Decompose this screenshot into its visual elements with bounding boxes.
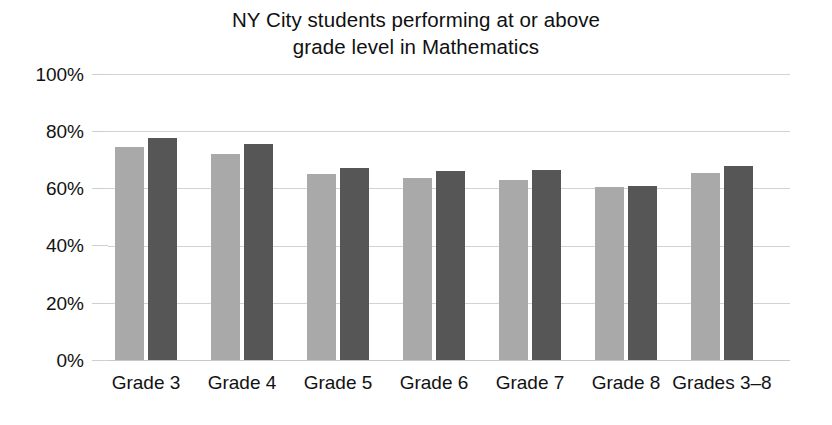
chart-title-line-1: NY City students performing at or above [0,6,832,33]
bar-group [691,74,753,360]
bar[interactable] [436,171,465,360]
bar[interactable] [691,173,720,360]
y-tick-mark-100 [92,74,108,75]
y-tick-label-100: 100% [4,65,84,84]
bar[interactable] [211,154,240,360]
y-tick-label-20: 20% [4,294,84,313]
y-tick-mark-0 [92,360,108,361]
chart-title: NY City students performing at or above … [0,6,832,60]
bar-group [115,74,177,360]
bar[interactable] [244,144,273,360]
bar[interactable] [307,174,336,360]
plot-area [108,74,790,360]
bar[interactable] [499,180,528,360]
y-tick-mark-80 [92,131,108,132]
y-tick-mark-60 [92,188,108,189]
bar[interactable] [724,166,753,360]
bar-group [595,74,657,360]
x-tick-label: Grades 3–8 [662,372,782,394]
y-tick-mark-20 [92,303,108,304]
bar[interactable] [628,186,657,360]
bar[interactable] [595,187,624,360]
y-tick-label-80: 80% [4,122,84,141]
y-tick-label-0: 0% [4,351,84,370]
bar-group [403,74,465,360]
bar-group [211,74,273,360]
bar-group [499,74,561,360]
y-tick-label-40: 40% [4,236,84,255]
chart-title-line-2: grade level in Mathematics [0,33,832,60]
y-tick-label-60: 60% [4,179,84,198]
bar[interactable] [532,170,561,360]
bar[interactable] [403,178,432,360]
gridline-0 [108,360,790,361]
y-tick-mark-40 [92,245,108,246]
bar[interactable] [148,138,177,360]
bar-group [307,74,369,360]
bar[interactable] [340,168,369,360]
bar[interactable] [115,147,144,360]
